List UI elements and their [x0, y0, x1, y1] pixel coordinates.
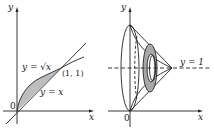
right-y-axis-label: y	[121, 3, 126, 12]
right-x-axis-label: x	[198, 113, 203, 122]
left-origin-label: 0	[10, 102, 16, 111]
right-graph	[108, 7, 210, 127]
axis-of-rotation-label: y = 1	[180, 58, 204, 67]
line-y-equals-x	[6, 43, 86, 124]
sqrt-curve-label: y = √x	[22, 63, 51, 72]
line-label: y = x	[40, 88, 63, 97]
left-x-axis-label: x	[89, 113, 94, 122]
figure: y x 0 y = √x y = x (1, 1) y x 0 y = 1	[0, 0, 214, 132]
right-origin-label: 0	[124, 114, 130, 123]
left-y-axis-label: y	[8, 3, 13, 12]
point-label: (1, 1)	[62, 70, 84, 78]
